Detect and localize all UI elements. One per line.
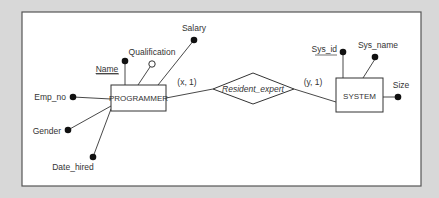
attribute-dot-sys-id xyxy=(340,49,347,56)
attribute-label-sys-name: Sys_name xyxy=(358,40,398,50)
er-diagram: PROGRAMMER Resident_expert (x, 1) (y, 1)… xyxy=(0,0,439,198)
attribute-label-qualification: Qualification xyxy=(129,47,176,57)
entity-programmer-label: PROGRAMMER xyxy=(109,94,168,103)
attribute-dot-sys-name xyxy=(372,54,379,61)
attribute-label-date-hired: Date_hired xyxy=(52,162,94,172)
attribute-label-sys-id: Sys_id xyxy=(311,44,337,54)
attribute-dot-name xyxy=(122,58,129,65)
cardinality-right: (y, 1) xyxy=(304,77,323,87)
entity-system-label: SYSTEM xyxy=(343,92,376,101)
attribute-dot-qualification xyxy=(149,61,155,67)
cardinality-left: (x, 1) xyxy=(177,77,197,87)
attribute-label-size: Size xyxy=(393,80,410,90)
attribute-dot-gender xyxy=(65,127,72,134)
attribute-dot-emp-no xyxy=(70,94,77,101)
attribute-dot-size xyxy=(395,94,402,101)
attribute-label-salary: Salary xyxy=(182,23,207,33)
attribute-label-emp-no: Emp_no xyxy=(34,92,66,102)
relationship-label: Resident_expert xyxy=(222,84,285,94)
attribute-label-name: Name xyxy=(96,64,119,74)
attribute-label-gender: Gender xyxy=(33,126,62,136)
attribute-dot-date-hired xyxy=(90,154,97,161)
attribute-dot-salary xyxy=(191,37,198,44)
